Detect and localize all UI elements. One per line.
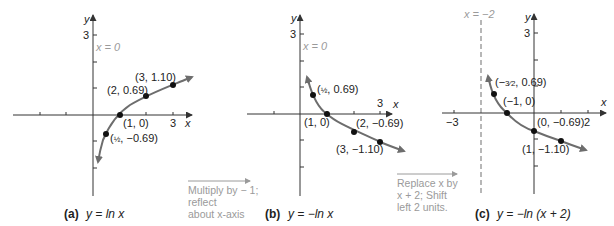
x-tick-3: 3 — [170, 117, 176, 129]
y-label: y — [524, 11, 532, 23]
caption-equation: y = ln x — [85, 207, 125, 221]
caption-letter: (c) — [475, 207, 490, 221]
x-tick-2: 2 — [584, 116, 590, 128]
caption-letter: (a) — [64, 207, 79, 221]
y-tick-3: 3 — [524, 27, 530, 39]
y-tick-3: 3 — [83, 29, 89, 41]
panel-a: y 3 x = 0 3 x (½, −0.69) (1, 0) (2, 0.69… — [13, 13, 192, 221]
caption-equation: y = −ln (x + 2) — [496, 207, 571, 221]
point-label: (3, −1.10) — [336, 143, 383, 155]
point-label: (1, 0) — [123, 117, 149, 129]
point-label: (½, −0.69) — [110, 132, 158, 144]
point-label: (−3⁄2, 0.69) — [495, 76, 547, 88]
x-tick-3: 3 — [377, 97, 383, 109]
asymptote-label: x = 0 — [95, 41, 121, 53]
transition-note-2: Replace x by x + 2; Shift left 2 units. — [397, 174, 458, 213]
point-label: (2, −0.69) — [356, 117, 403, 129]
svg-text:Replace x by: Replace x by — [397, 177, 458, 189]
svg-text:Multiply by − 1;: Multiply by − 1; — [188, 184, 258, 196]
transition-note-1: Multiply by − 1; reflect about x-axis — [188, 181, 258, 220]
x-tick-neg3: −3 — [446, 116, 459, 128]
ticks — [40, 35, 173, 168]
point-label: (1, 0) — [304, 116, 330, 128]
panel-b: y 3 x = 0 3 x (½, 0.69) (1, 0) (2, −0.69… — [247, 12, 404, 221]
svg-text:reflect: reflect — [188, 196, 217, 208]
caption-letter: (b) — [265, 207, 280, 221]
asymptote-label: x = 0 — [302, 40, 328, 52]
svg-text:x + 2; Shift: x + 2; Shift — [397, 189, 447, 201]
x-label: x — [600, 96, 607, 108]
point-label: (½, 0.69) — [317, 83, 359, 95]
asymptote-label: x = −2 — [463, 8, 495, 20]
point-label: (3, 1.10) — [135, 71, 176, 83]
y-tick-3: 3 — [290, 28, 296, 40]
point-label: (−1, 0) — [503, 95, 535, 107]
x-label: x — [184, 117, 191, 129]
panel-c: x = −2 y 3 −3 2 x (−3⁄2, 0.69) (−1, 0) (… — [442, 8, 607, 221]
point-label: (1, −1.10) — [522, 143, 569, 155]
svg-text:about x-axis: about x-axis — [188, 208, 245, 220]
figure: y 3 x = 0 3 x (½, −0.69) (1, 0) (2, 0.69… — [0, 0, 614, 226]
y-label: y — [290, 12, 298, 24]
point-label: (2, 0.69) — [107, 84, 148, 96]
svg-text:left 2 units.: left 2 units. — [397, 201, 448, 213]
point-label: (0, −0.69) — [537, 116, 584, 128]
y-label: y — [83, 13, 91, 25]
x-label: x — [392, 98, 399, 110]
caption-equation: y = −ln x — [287, 207, 334, 221]
